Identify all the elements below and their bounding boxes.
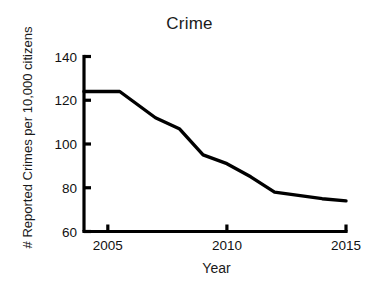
axis-lines <box>82 55 347 232</box>
x-tick-label: 2015 <box>331 238 361 253</box>
data-series <box>84 92 346 201</box>
data-line-1 <box>84 92 346 201</box>
y-tick-label: 80 <box>62 181 77 196</box>
y-tick-label: 100 <box>54 137 77 152</box>
plot-area: 6080100120140 200520102015 <box>0 0 379 290</box>
x-axis-ticks: 200520102015 <box>93 225 361 253</box>
chart-figure: Crime # Reported Crimes per 10,000 citiz… <box>0 0 379 290</box>
y-tick-label: 60 <box>62 225 77 240</box>
y-tick-label: 120 <box>54 93 77 108</box>
y-tick-label: 140 <box>54 50 77 65</box>
x-tick-label: 2005 <box>93 238 123 253</box>
x-tick-label: 2010 <box>212 238 242 253</box>
